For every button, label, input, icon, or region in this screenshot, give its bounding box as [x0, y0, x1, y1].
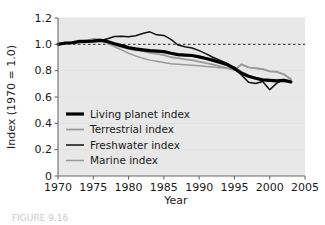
x-tick-label: 1975 — [79, 181, 107, 194]
legend-label-living-planet-index: Living planet index — [90, 108, 190, 120]
x-tick-label: 1970 — [44, 181, 72, 194]
legend-label-freshwater-index: Freshwater index — [90, 139, 180, 151]
x-tick-label: 1985 — [150, 181, 178, 194]
legend-label-terrestrial-index: Terrestrial index — [89, 123, 174, 135]
figure-container: 00.20.40.60.81.01.2 19701975198019851990… — [0, 0, 325, 225]
y-tick-label: 1.0 — [35, 38, 53, 51]
x-tick-label: 2005 — [291, 181, 319, 194]
figure-caption: FIGURE 9.16 — [12, 213, 69, 223]
x-axis-title: Year — [163, 194, 188, 207]
legend-label-marine-index: Marine index — [90, 154, 158, 166]
line-chart: 00.20.40.60.81.01.2 19701975198019851990… — [0, 0, 325, 225]
y-tick-label: 0.4 — [35, 117, 53, 130]
x-tick-label: 1980 — [115, 181, 143, 194]
y-tick-label: 0.6 — [35, 91, 53, 104]
x-tick-label: 1990 — [185, 181, 213, 194]
x-tick-label: 1995 — [220, 181, 248, 194]
y-tick-label: 1.2 — [35, 12, 53, 25]
x-tick-label: 2000 — [256, 181, 284, 194]
y-tick-label: 0.2 — [35, 143, 53, 156]
y-axis-title: Index (1970 = 1.0) — [5, 45, 18, 149]
y-tick-label: 0.8 — [35, 64, 53, 77]
